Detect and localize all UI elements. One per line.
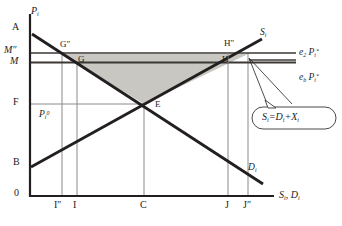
callout-equation: Si=Di+Xi [262,112,299,122]
x-tick-j: J [225,200,229,210]
y-tick-m: M [10,56,18,66]
origin-label: 0 [14,188,19,198]
domestic-price-label: Pi0 [39,110,49,120]
point-label-h: H [222,55,229,64]
y-tick-f: F [13,97,19,107]
y-tick-a: A [12,22,19,32]
export-parity-price-label: eb Pi* [299,73,319,83]
point-label-g: G [78,55,85,64]
import-parity-price-label: e2 Pi* [299,48,319,58]
x-tick-c: C [140,200,147,210]
leader-line-callout-a [249,58,268,106]
x-tick-j-double-prime: J″ [243,200,251,210]
point-label-g-double-prime: G″ [60,40,70,49]
y-tick-b: B [13,157,20,167]
demand-curve-label: Di [248,163,257,173]
x-tick-i-double-prime: I″ [54,200,62,210]
x-tick-i: I [73,200,76,210]
point-label-e: E [155,100,161,109]
supply-demand-figure: Pi A M″ M F B 0 I″ I C J J″ Si, Di G″ G … [0,0,342,226]
point-label-h-double-prime: H″ [224,39,234,48]
y-tick-m-double-prime: M″ [4,45,17,55]
y-axis-label: Pi [31,6,39,16]
leader-line-callout-b [249,58,292,104]
x-axis-label: Si, Di [279,190,300,200]
supply-curve-label: Si [260,28,266,38]
